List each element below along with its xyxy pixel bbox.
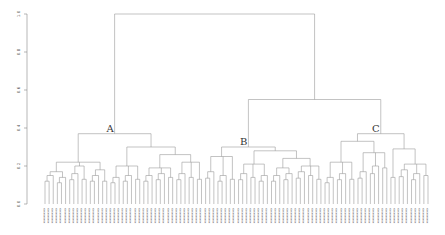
y-tick-label: 0.2 bbox=[16, 162, 21, 169]
leaf-label: xxxxxxxxxx bbox=[352, 208, 355, 224]
leaf-label: xxxxxxxxxx bbox=[154, 208, 157, 224]
leaf-label: xxxxxxxxxx bbox=[278, 208, 281, 224]
leaf-label: xxxxxxxxxx bbox=[138, 208, 141, 224]
leaf-label: xxxxxxxxxx bbox=[134, 208, 137, 224]
leaf-label: xxxxxxxxxx bbox=[55, 208, 58, 224]
cluster-labels: ABC bbox=[105, 123, 380, 147]
y-tick-label: 0.6 bbox=[16, 86, 21, 93]
leaf-label: xxxxxxxxxx bbox=[80, 208, 83, 224]
leaf-label: xxxxxxxxxx bbox=[282, 208, 285, 224]
leaf-label: xxxxxxxxxx bbox=[286, 208, 289, 224]
leaf-label: xxxxxxxxxx bbox=[405, 208, 408, 224]
leaf-label: xxxxxxxxxx bbox=[191, 208, 194, 224]
leaf-label: xxxxxxxxxx bbox=[84, 208, 87, 224]
leaf-label: xxxxxxxxxx bbox=[208, 208, 211, 224]
leaf-label: xxxxxxxxxx bbox=[59, 208, 62, 224]
y-tick-label: 0.0 bbox=[16, 200, 21, 207]
leaf-label: xxxxxxxxxx bbox=[51, 208, 54, 224]
leaf-label: xxxxxxxxxx bbox=[162, 208, 165, 224]
leaf-label: xxxxxxxxxx bbox=[401, 208, 404, 224]
leaf-label: xxxxxxxxxx bbox=[257, 208, 260, 224]
leaf-label: xxxxxxxxxx bbox=[327, 208, 330, 224]
leaf-label: xxxxxxxxxx bbox=[410, 208, 413, 224]
leaf-label: xxxxxxxxxx bbox=[220, 208, 223, 224]
leaf-label: xxxxxxxxxx bbox=[426, 208, 429, 224]
leaf-label: xxxxxxxxxx bbox=[175, 208, 178, 224]
leaf-label: xxxxxxxxxx bbox=[368, 208, 371, 224]
leaf-label: xxxxxxxxxx bbox=[270, 208, 273, 224]
leaf-label: xxxxxxxxxx bbox=[109, 208, 112, 224]
leaf-label: xxxxxxxxxx bbox=[150, 208, 153, 224]
leaf-label: xxxxxxxxxx bbox=[265, 208, 268, 224]
leaf-label: xxxxxxxxxx bbox=[76, 208, 79, 224]
leaf-label: xxxxxxxxxx bbox=[195, 208, 198, 224]
leaf-label: xxxxxxxxxx bbox=[360, 208, 363, 224]
leaf-label: xxxxxxxxxx bbox=[228, 208, 231, 224]
cluster-label-b: B bbox=[240, 136, 247, 147]
leaf-label: xxxxxxxxxx bbox=[158, 208, 161, 224]
leaf-label: xxxxxxxxxx bbox=[393, 208, 396, 224]
dendrogram-chart: 0.00.20.40.60.81.0 ABC xxxxxxxxxxxxxxxxx… bbox=[0, 0, 445, 235]
leaf-label: xxxxxxxxxx bbox=[340, 208, 343, 224]
leaf-label: xxxxxxxxxx bbox=[294, 208, 297, 224]
leaf-label: xxxxxxxxxx bbox=[372, 208, 375, 224]
leaf-label: xxxxxxxxxx bbox=[92, 208, 95, 224]
leaf-label: xxxxxxxxxx bbox=[335, 208, 338, 224]
leaf-label: xxxxxxxxxx bbox=[356, 208, 359, 224]
leaf-label: xxxxxxxxxx bbox=[216, 208, 219, 224]
leaf-label: xxxxxxxxxx bbox=[47, 208, 50, 224]
leaf-label: xxxxxxxxxx bbox=[88, 208, 91, 224]
leaf-label: xxxxxxxxxx bbox=[261, 208, 264, 224]
leaf-label: xxxxxxxxxx bbox=[212, 208, 215, 224]
leaf-label: xxxxxxxxxx bbox=[414, 208, 417, 224]
leaf-label: xxxxxxxxxx bbox=[311, 208, 314, 224]
leaf-label: xxxxxxxxxx bbox=[113, 208, 116, 224]
leaf-label: xxxxxxxxxx bbox=[377, 208, 380, 224]
leaf-label: xxxxxxxxxx bbox=[117, 208, 120, 224]
leaf-label: xxxxxxxxxx bbox=[101, 208, 104, 224]
leaf-label: xxxxxxxxxx bbox=[323, 208, 326, 224]
y-tick-label: 0.8 bbox=[16, 48, 21, 55]
leaf-label: xxxxxxxxxx bbox=[290, 208, 293, 224]
leaf-label: xxxxxxxxxx bbox=[125, 208, 128, 224]
leaf-label: xxxxxxxxxx bbox=[183, 208, 186, 224]
y-tick-label: 0.4 bbox=[16, 124, 21, 131]
leaf-label: xxxxxxxxxx bbox=[364, 208, 367, 224]
leaf-label: xxxxxxxxxx bbox=[315, 208, 318, 224]
leaf-labels: xxxxxxxxxxxxxxxxxxxxxxxxxxxxxxxxxxxxxxxx… bbox=[43, 208, 429, 224]
dendrogram-branches bbox=[45, 14, 428, 204]
leaf-label: xxxxxxxxxx bbox=[121, 208, 124, 224]
leaf-label: xxxxxxxxxx bbox=[418, 208, 421, 224]
leaf-label: xxxxxxxxxx bbox=[105, 208, 108, 224]
leaf-label: xxxxxxxxxx bbox=[249, 208, 252, 224]
leaf-label: xxxxxxxxxx bbox=[167, 208, 170, 224]
leaf-label: xxxxxxxxxx bbox=[381, 208, 384, 224]
cluster-label-a: A bbox=[105, 123, 114, 134]
leaf-label: xxxxxxxxxx bbox=[344, 208, 347, 224]
leaf-label: xxxxxxxxxx bbox=[129, 208, 132, 224]
leaf-label: xxxxxxxxxx bbox=[274, 208, 277, 224]
leaf-label: xxxxxxxxxx bbox=[199, 208, 202, 224]
leaf-label: xxxxxxxxxx bbox=[422, 208, 425, 224]
leaf-label: xxxxxxxxxx bbox=[97, 208, 100, 224]
leaf-label: xxxxxxxxxx bbox=[72, 208, 75, 224]
leaf-label: xxxxxxxxxx bbox=[64, 208, 67, 224]
leaf-label: xxxxxxxxxx bbox=[389, 208, 392, 224]
leaf-label: xxxxxxxxxx bbox=[397, 208, 400, 224]
leaf-label: xxxxxxxxxx bbox=[302, 208, 305, 224]
y-axis: 0.00.20.40.60.81.0 bbox=[16, 10, 27, 207]
leaf-label: xxxxxxxxxx bbox=[171, 208, 174, 224]
leaf-label: xxxxxxxxxx bbox=[237, 208, 240, 224]
leaf-label: xxxxxxxxxx bbox=[307, 208, 310, 224]
leaf-label: xxxxxxxxxx bbox=[142, 208, 145, 224]
leaf-label: xxxxxxxxxx bbox=[204, 208, 207, 224]
cluster-label-c: C bbox=[372, 123, 380, 134]
leaf-label: xxxxxxxxxx bbox=[68, 208, 71, 224]
leaf-label: xxxxxxxxxx bbox=[348, 208, 351, 224]
leaf-label: xxxxxxxxxx bbox=[224, 208, 227, 224]
leaf-label: xxxxxxxxxx bbox=[253, 208, 256, 224]
leaf-label: xxxxxxxxxx bbox=[331, 208, 334, 224]
leaf-label: xxxxxxxxxx bbox=[241, 208, 244, 224]
y-tick-label: 1.0 bbox=[16, 10, 21, 17]
leaf-label: xxxxxxxxxx bbox=[245, 208, 248, 224]
